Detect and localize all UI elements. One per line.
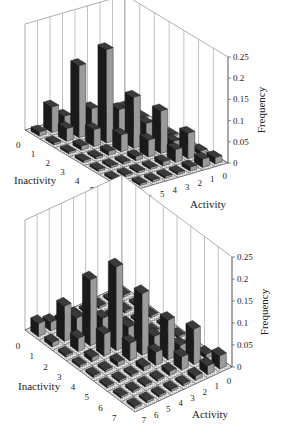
z-tick-label: 0 (233, 158, 238, 168)
z-tick-label: 0.1 (237, 318, 248, 328)
activity-tick-label: 0 (223, 171, 228, 181)
bar-side (168, 317, 175, 360)
bar-side (161, 109, 168, 153)
bar-side (116, 264, 123, 351)
inactivity-axis-title: Inactivity (14, 174, 57, 186)
bar-side (175, 148, 182, 163)
bar (122, 334, 137, 361)
z-tick-label: 0.15 (237, 296, 253, 306)
z-tick-label: 0.1 (233, 116, 244, 126)
bar-side (121, 133, 128, 152)
inactivity-tick-label: 4 (71, 382, 76, 392)
z-tick-label: 0.05 (233, 137, 249, 147)
bar (44, 100, 59, 132)
z-axis: 00.050.10.150.20.25Frequency (232, 252, 270, 372)
z-axis-title: Frequency (258, 288, 270, 335)
activity-tick-label: 4 (173, 185, 178, 195)
activity-tick-label: 5 (166, 404, 171, 414)
inactivity-tick-label: 3 (60, 167, 65, 177)
activity-tick-label: 1 (215, 381, 220, 391)
inactivity-tick-label: 1 (31, 149, 36, 159)
activity-tick-label: 3 (185, 182, 190, 192)
inactivity-axis-title: Inactivity (18, 380, 61, 392)
bar (113, 128, 128, 152)
z-tick-label: 0.2 (233, 73, 244, 83)
activity-tick-label: 0 (227, 376, 232, 386)
inactivity-tick-label: 2 (43, 362, 48, 372)
bar-side (130, 340, 137, 361)
bar-side (194, 326, 201, 364)
z-tick-label: 0 (237, 362, 242, 372)
inactivity-tick-label: 0 (16, 140, 21, 150)
bar-side (64, 303, 71, 341)
inactivity-tick-label: 2 (46, 158, 51, 168)
chart-bottom: 00.050.10.150.20.25Frequency012345677654… (16, 175, 270, 425)
bar-side (142, 291, 149, 356)
activity-tick-label: 7 (142, 415, 147, 425)
z-tick-label: 0.25 (237, 252, 253, 262)
bar-side (133, 95, 140, 148)
activity-tick-label: 5 (160, 189, 165, 199)
bar (71, 59, 86, 138)
bar (82, 271, 97, 346)
bar-front (57, 300, 65, 341)
bar-side (66, 127, 73, 142)
figure: 00.050.10.150.20.25Frequency012345676543… (0, 0, 292, 437)
bar-side (90, 277, 97, 346)
z-tick-label: 0.15 (233, 94, 249, 104)
bar-front (44, 102, 52, 132)
inactivity-tick-label: 0 (16, 341, 21, 351)
bar (85, 123, 100, 147)
activity-tick-label: 3 (190, 393, 195, 403)
z-tick-label: 0.25 (233, 52, 249, 62)
inactivity-tick-label: 1 (29, 351, 34, 361)
activity-tick-label: 2 (202, 387, 207, 397)
z-axis-title: Frequency (255, 86, 267, 133)
bar-side (188, 131, 195, 158)
inactivity-tick-label: 7 (112, 413, 117, 423)
bar-side (52, 105, 59, 133)
activity-tick-label: 4 (178, 398, 183, 408)
activity-tick-label: 1 (210, 174, 215, 184)
bar-side (148, 138, 155, 157)
bar-side (94, 128, 101, 147)
bar (96, 325, 111, 356)
bar-side (79, 64, 86, 138)
inactivity-tick-label: 6 (98, 403, 103, 413)
activity-axis-title: Activity (192, 408, 229, 420)
bar-side (104, 331, 111, 356)
bar-side (106, 48, 113, 143)
bar (57, 297, 72, 341)
inactivity-tick-label: 5 (84, 392, 89, 402)
activity-axis-title: Activity (190, 198, 227, 210)
z-tick-label: 0.2 (237, 274, 248, 284)
z-tick-label: 0.05 (237, 340, 253, 350)
chart-top: 00.050.10.150.20.25Frequency012345676543… (14, 0, 267, 210)
activity-tick-label: 6 (154, 410, 159, 420)
activity-tick-label: 2 (198, 178, 203, 188)
z-axis: 00.050.10.150.20.25Frequency (228, 52, 267, 168)
inactivity-tick-label: 4 (75, 176, 80, 186)
bar (140, 133, 155, 157)
